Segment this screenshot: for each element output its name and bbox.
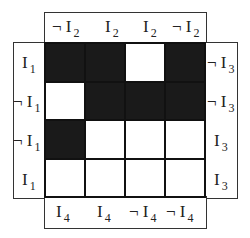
map-cell-r2-c3	[166, 121, 204, 158]
left-label-2: ¬ I1	[13, 132, 41, 153]
bottom-label-0: I4	[56, 203, 70, 224]
map-cell-r1-c3	[166, 83, 204, 120]
map-cell-r0-c2	[126, 44, 164, 81]
karnaugh-grid	[44, 42, 206, 198]
map-cell-r2-c1	[86, 121, 124, 158]
map-cell-r2-c0	[46, 121, 84, 158]
bottom-label-1: I4	[97, 203, 111, 224]
map-cell-r1-c1	[86, 83, 124, 120]
map-cell-r3-c2	[126, 160, 164, 197]
map-cell-r0-c0	[46, 44, 84, 81]
map-cell-r2-c2	[126, 121, 164, 158]
left-label-1: ¬ I1	[13, 93, 41, 114]
bottom-label-2: ¬ I4	[129, 203, 157, 224]
bottom-label-3: ¬ I4	[166, 203, 194, 224]
map-cell-r1-c0	[46, 83, 84, 120]
top-label-0: ¬ I2	[52, 18, 80, 39]
map-cell-r3-c3	[166, 160, 204, 197]
right-label-0: ¬ I3	[207, 54, 235, 75]
map-cell-r0-c1	[86, 44, 124, 81]
map-cell-r3-c1	[86, 160, 124, 197]
top-label-2: I2	[143, 18, 157, 39]
right-label-1: ¬ I3	[207, 93, 235, 114]
right-label-3: I3	[214, 171, 228, 192]
top-label-3: ¬ I2	[172, 18, 200, 39]
right-label-2: I3	[214, 132, 228, 153]
left-label-0: I1	[22, 54, 36, 75]
map-cell-r0-c3	[166, 44, 204, 81]
map-cell-r1-c2	[126, 83, 164, 120]
left-label-3: I1	[22, 171, 36, 192]
top-label-1: I2	[105, 18, 119, 39]
map-cell-r3-c0	[46, 160, 84, 197]
